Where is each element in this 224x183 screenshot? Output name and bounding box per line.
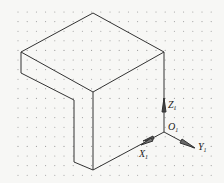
background — [0, 0, 224, 183]
isometric-diagram: Z1 O1 X1 Y1 — [0, 0, 224, 183]
